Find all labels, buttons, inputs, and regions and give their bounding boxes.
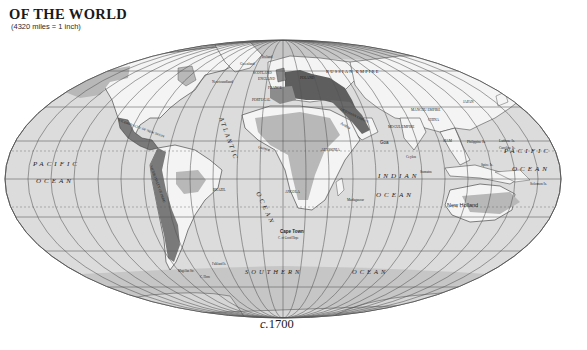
label-china: CHINA [428,118,440,122]
caption-prefix: c. [260,317,269,331]
label-abyssinia: ABYSSINIA [321,148,340,152]
label-pacific-east-ocean: OCEAN [512,165,550,173]
label-scotland: SCOTLAND [253,71,272,75]
label-caroline: Caroline Is. [499,146,515,150]
map-date-caption: c.1700 [260,317,294,332]
label-southern-ocean: OCEAN [352,268,388,275]
label-indian: INDIAN [377,172,419,180]
label-madagascar: Madagascar [347,198,365,202]
label-sumatra: Sumatra [420,170,432,174]
british-isles [276,68,286,82]
label-cape-horn: C. Horn [200,275,210,279]
label-magellan: Magellan Str. [178,269,194,273]
label-new-holland: New Holland [447,202,478,208]
label-cape-town: Cape Town [280,229,304,234]
label-spice: Spice Is. [481,163,493,167]
label-portugal: PORTUGAL [252,98,270,102]
label-japan: JAPAN [463,100,474,104]
caption-year: 1700 [269,317,294,331]
label-goa: Goa [380,140,389,145]
label-falkland: Falkland Is. [212,262,226,266]
label-mogul: MOGUL EMPIRE [388,125,414,129]
label-philippine: Philippine Is. [467,140,486,144]
label-siam: SIAM [443,139,453,143]
label-cape-good-hope: C. of Good Hope [278,236,299,240]
label-brazil: BRAZIL [213,188,226,192]
label-indian-ocean: OCEAN [376,191,414,199]
label-poland: POLAND [300,76,315,80]
label-angola: ANGOLA [285,190,300,194]
world-map: PACIFIC OCEAN ATLANTIC OCEAN INDIAN OCEA… [0,0,587,350]
label-france: FRANCE [268,86,282,90]
label-ceylon: Ceylon [406,155,416,159]
label-solomon: Solomon Is. [530,182,547,186]
label-manchu: MANCHU EMPIRE [411,108,440,112]
label-greenland: Greenland [240,62,255,66]
label-iceland: Iceland [262,55,273,59]
label-england: ENGLAND [258,77,275,81]
label-pacific-west: PACIFIC [32,160,80,168]
label-newfoundland: Newfoundland [212,80,233,84]
label-southern: SOUTHERN [245,268,302,275]
label-russian-empire: RUSSIAN EMPIRE [326,69,380,74]
label-ladrone: Ladrone Is. [499,139,515,143]
label-pacific-west-ocean: OCEAN [36,177,74,185]
